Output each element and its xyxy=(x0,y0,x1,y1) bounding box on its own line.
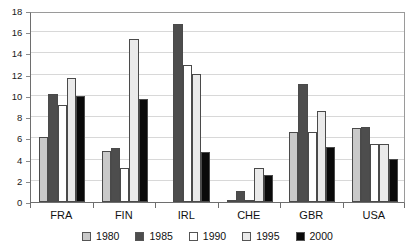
y-tick-label: 12 xyxy=(12,71,22,81)
bar-che-1995 xyxy=(254,168,263,202)
bar-fin-1995 xyxy=(129,39,138,202)
bar-fin-1985 xyxy=(111,148,120,202)
bar-group-usa xyxy=(352,13,399,202)
bar-usa-1985 xyxy=(361,127,370,202)
bar-fin-1980 xyxy=(102,151,111,202)
y-tick-mark xyxy=(26,118,30,119)
x-tick-label-fra: FRA xyxy=(50,209,72,221)
y-tick-mark xyxy=(26,161,30,162)
legend-label: 1995 xyxy=(256,231,279,242)
legend-item-1980[interactable]: 1980 xyxy=(82,231,119,242)
bar-gbr-1995 xyxy=(317,111,326,202)
y-tick-mark xyxy=(26,97,30,98)
y-tick-label: 8 xyxy=(17,113,22,123)
y-tick-mark xyxy=(26,139,30,140)
x-tick-label-usa: USA xyxy=(362,209,385,221)
bar-fin-1990 xyxy=(120,168,129,202)
y-tick-label: 10 xyxy=(12,92,22,102)
x-tick-label-fin: FIN xyxy=(115,209,133,221)
x-tick-mark xyxy=(30,203,31,208)
y-tick-label: 18 xyxy=(12,7,22,17)
y-tick-label: 0 xyxy=(17,198,22,208)
x-tick-mark xyxy=(218,203,219,208)
bar-fra-1995 xyxy=(67,78,76,202)
bar-gbr-1980 xyxy=(289,132,298,202)
bar-fra-1980 xyxy=(39,137,48,202)
y-tick-mark xyxy=(26,76,30,77)
bar-usa-2000 xyxy=(389,159,398,203)
bar-fin-2000 xyxy=(139,99,148,202)
bar-usa-1980 xyxy=(352,128,361,202)
y-tick-label: 16 xyxy=(12,28,22,38)
legend-label: 1985 xyxy=(149,231,172,242)
y-tick-label: 14 xyxy=(12,50,22,60)
y-tick-mark xyxy=(26,182,30,183)
x-tick-mark xyxy=(404,203,405,208)
x-tick-mark xyxy=(343,203,344,208)
legend-label: 1980 xyxy=(96,231,119,242)
legend-swatch-icon xyxy=(189,232,198,241)
legend-swatch-icon xyxy=(296,232,305,241)
x-tick-mark xyxy=(280,203,281,208)
bar-fra-2000 xyxy=(76,96,85,202)
bar-chart: 024681012141618 FRAFINIRLCHEGBRUSA 19801… xyxy=(0,0,415,247)
x-tick-mark xyxy=(93,203,94,208)
y-tick-mark xyxy=(26,203,30,204)
bar-group-fin xyxy=(102,13,149,202)
bar-irl-1995 xyxy=(192,74,201,202)
y-tick-label: 6 xyxy=(17,135,22,145)
legend-item-2000[interactable]: 2000 xyxy=(296,231,333,242)
bar-irl-1985 xyxy=(173,24,182,202)
bar-group-irl xyxy=(164,13,211,202)
legend-item-1995[interactable]: 1995 xyxy=(242,231,279,242)
legend-label: 1990 xyxy=(203,231,226,242)
y-axis: 024681012141618 xyxy=(0,0,26,203)
bar-fra-1985 xyxy=(48,94,57,202)
y-tick-mark xyxy=(26,54,30,55)
legend-swatch-icon xyxy=(135,232,144,241)
legend-item-1985[interactable]: 1985 xyxy=(135,231,172,242)
bar-group-gbr xyxy=(289,13,336,202)
bar-irl-2000 xyxy=(201,152,210,202)
bar-che-2000 xyxy=(264,175,273,202)
x-tick-label-gbr: GBR xyxy=(299,209,323,221)
y-tick-label: 4 xyxy=(17,156,22,166)
x-tick-mark xyxy=(155,203,156,208)
bar-usa-1990 xyxy=(370,144,379,202)
bars-layer xyxy=(31,13,404,202)
y-tick-mark xyxy=(26,33,30,34)
legend-item-1990[interactable]: 1990 xyxy=(189,231,226,242)
y-tick-label: 2 xyxy=(17,177,22,187)
legend-swatch-icon xyxy=(242,232,251,241)
legend-label: 2000 xyxy=(310,231,333,242)
bar-group-fra xyxy=(39,13,86,202)
plot-area xyxy=(30,12,405,203)
bar-che-1980 xyxy=(227,200,236,202)
bar-fra-1990 xyxy=(58,105,67,202)
bar-gbr-2000 xyxy=(326,147,335,202)
x-tick-label-che: CHE xyxy=(237,209,260,221)
bar-gbr-1985 xyxy=(298,84,307,202)
bar-che-1985 xyxy=(236,191,245,202)
bar-usa-1995 xyxy=(379,144,388,202)
bar-gbr-1990 xyxy=(308,132,317,202)
bar-group-che xyxy=(227,13,274,202)
x-axis: FRAFINIRLCHEGBRUSA xyxy=(30,203,405,225)
legend-swatch-icon xyxy=(82,232,91,241)
bar-irl-1990 xyxy=(183,65,192,202)
y-tick-mark xyxy=(26,12,30,13)
x-tick-label-irl: IRL xyxy=(178,209,195,221)
chart-legend: 19801985199019952000 xyxy=(0,226,415,247)
bar-che-1990 xyxy=(245,200,254,202)
